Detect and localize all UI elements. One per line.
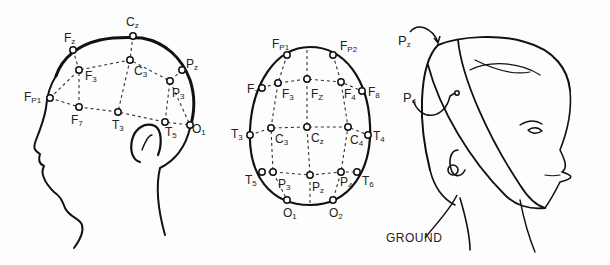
electrode-pz: [179, 67, 185, 73]
label-f3: F3: [282, 88, 294, 102]
p4-sub: 4: [412, 97, 416, 106]
label-cz: Cz: [311, 132, 324, 146]
electrode-c3: [127, 57, 133, 63]
electrode-o1: [284, 197, 290, 203]
label-o2: O2: [329, 207, 343, 221]
pz-main: P: [398, 33, 407, 48]
electrode-p3: [270, 169, 276, 175]
label-t5: T5: [245, 174, 257, 188]
label-t3: T3: [231, 128, 243, 142]
headband-figure: [422, 37, 571, 252]
electrode-f4: [338, 79, 344, 85]
electrode-fp1: [284, 52, 290, 58]
label-o1: O1: [192, 123, 206, 137]
headband-label-p4: P4: [403, 91, 416, 106]
p4-main: P: [403, 90, 412, 105]
electrode-t6: [354, 169, 360, 175]
electrode-p3: [167, 78, 173, 84]
label-t4: T4: [373, 130, 385, 144]
electrode-fp2: [330, 52, 336, 58]
label-t6: T6: [362, 175, 374, 189]
label-c3: C3: [134, 65, 147, 79]
label-pz: Pz: [312, 181, 324, 195]
label-t5: T5: [165, 126, 177, 140]
label-fp1: FP1: [24, 91, 41, 105]
label-f8: F8: [368, 86, 380, 100]
electrode-f7: [76, 104, 82, 110]
label-fz: FZ: [311, 88, 323, 102]
electrode-f8: [359, 88, 365, 94]
label-fp2: FP2: [340, 40, 357, 54]
label-p4: P4: [340, 176, 352, 190]
electrode-fz: [70, 47, 76, 53]
label-p3: P3: [172, 87, 184, 101]
label-p3: P3: [278, 178, 290, 192]
electrode-fp1: [47, 95, 53, 101]
electrode-cz: [130, 33, 136, 39]
label-f4: F4: [344, 88, 356, 102]
electrode-c4: [345, 124, 351, 130]
label-c3: C3: [275, 133, 288, 147]
label-fp1: FP1: [272, 38, 289, 52]
label-f7: F7: [247, 83, 259, 97]
headband-arrows: [410, 27, 459, 238]
label-fz: Fz: [64, 32, 75, 46]
headband-label-pz: Pz: [398, 34, 411, 49]
label-f3: F3: [85, 70, 97, 84]
label-c4: C4: [350, 134, 363, 148]
label-cz: Cz: [126, 16, 139, 30]
electrode-f7: [259, 85, 265, 91]
electrode-o2: [330, 197, 336, 203]
side-view-head: [34, 37, 193, 248]
pz-sub: z: [407, 40, 411, 49]
label-o1: O1: [283, 207, 297, 221]
eeg-diagram: [0, 0, 610, 265]
electrode-t3: [247, 132, 253, 138]
ground-label: GROUND: [386, 232, 442, 244]
label-t3: T3: [112, 119, 124, 133]
electrode-pz: [307, 172, 313, 178]
label-f7: F7: [71, 114, 83, 128]
electrode-t4: [365, 132, 371, 138]
electrode-f3: [275, 80, 281, 86]
electrode-t5: [259, 169, 265, 175]
electrode-fz: [304, 76, 310, 82]
electrode-f3: [76, 67, 82, 73]
electrode-c3: [268, 125, 274, 131]
label-pz: Pz: [186, 58, 198, 72]
electrode-cz: [304, 124, 310, 130]
electrode-t3: [115, 109, 121, 115]
